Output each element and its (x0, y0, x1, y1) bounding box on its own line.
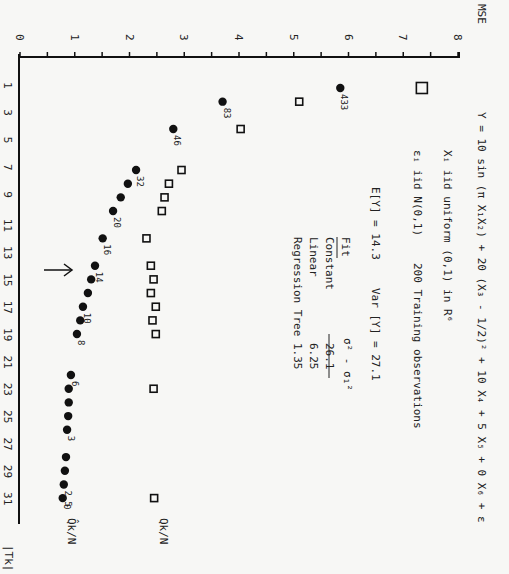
data-point-circle (79, 303, 87, 311)
data-point-square (152, 331, 159, 338)
tk-tick-label: 7 (1, 164, 14, 171)
data-point-circle (84, 289, 92, 297)
legend-q-label: Qk/N (157, 518, 170, 545)
tk-tick-label: 11 (1, 219, 14, 232)
scatter-chart: 012345678 135791113151719212325272931 MS… (0, 0, 509, 574)
data-point-circle (218, 97, 226, 105)
point-label: 14 (94, 272, 104, 283)
point-label: 20 (112, 217, 122, 228)
model-equation: Y = 10 sin (π X₁X₂) + 20 (X₃ - 1/2)² + 1… (475, 112, 488, 523)
data-point-square (161, 194, 168, 201)
legend: Q̂k/N Qk/N (65, 518, 170, 545)
arrow-marker (44, 264, 72, 276)
data-point-square (296, 98, 303, 105)
data-point-circle (91, 262, 99, 270)
fit-table-name: Linear (307, 237, 320, 277)
error-distribution-text: εᵢ iid N(0,1) (411, 150, 424, 236)
data-point-circle (60, 480, 68, 488)
mse-tick-labels: 012345678 (13, 34, 464, 41)
mse-axis-label: MSE (475, 4, 488, 24)
fit-table-name: Regression Tree (291, 237, 304, 336)
data-point-circle (132, 166, 140, 174)
point-label: 32 (135, 176, 145, 187)
data-point-square (143, 235, 150, 242)
mse-tick-label: 6 (342, 34, 355, 41)
data-point-circle (73, 330, 81, 338)
tk-tick-label: 29 (1, 465, 14, 478)
data-point-square (150, 276, 157, 283)
tk-tick-label: 31 (1, 492, 14, 505)
tk-tick-label: 21 (1, 355, 14, 368)
point-label: 10 (82, 313, 92, 324)
data-point-square (150, 385, 157, 392)
data-point-circle (61, 467, 69, 475)
data-point-square (152, 303, 159, 310)
tk-tick-label: 13 (1, 246, 14, 259)
mse-tick-label: 1 (68, 34, 81, 41)
data-point-square (237, 126, 244, 133)
fit-table-value: 6.25 (307, 343, 320, 370)
mse-tick-label: 0 (13, 34, 26, 41)
point-labels: 433834632201614108632.50 (62, 94, 350, 510)
tk-tick-label: 27 (1, 437, 14, 450)
fit-table-name: Constant (323, 237, 336, 290)
data-point-square (416, 83, 427, 94)
mse-tick-label: 7 (396, 34, 409, 41)
tk-tick-label: 9 (1, 191, 14, 198)
point-label: 3 (66, 436, 76, 441)
tk-tick-label: 3 (1, 109, 14, 116)
expected-y-text: E[Y] = 14.3 (369, 187, 382, 260)
tk-tick-label: 1 (1, 82, 14, 89)
data-point-square (151, 495, 158, 502)
mse-tick-label: 4 (232, 34, 245, 41)
data-point-square (165, 180, 172, 187)
point-label: 8 (76, 340, 86, 345)
data-point-circle (65, 398, 73, 406)
data-point-square (149, 317, 156, 324)
fit-table-value: 26.1 (323, 343, 336, 370)
variance-y-text: Var [Y] = 27.1 (369, 288, 382, 381)
data-point-circle (169, 125, 177, 133)
table-header-fit: Fit (339, 237, 352, 257)
fit-table-value: 1.35 (291, 343, 304, 370)
data-point-square (147, 290, 154, 297)
tk-tick-label: 5 (1, 137, 14, 144)
mse-tick-label: 2 (123, 34, 136, 41)
tk-tick-label: 17 (1, 301, 14, 314)
point-label: 433 (339, 94, 349, 110)
tk-tick-label: 23 (1, 383, 14, 396)
point-label: 83 (222, 108, 232, 119)
table-header-value: σ² - σ₁² (341, 338, 354, 391)
mse-tick-label: 3 (177, 34, 190, 41)
data-point-square (147, 262, 154, 269)
training-observations-text: 200 Training observations (411, 263, 424, 429)
data-point-circle (109, 207, 117, 215)
point-label: 6 (70, 381, 80, 386)
data-point-circle (62, 453, 70, 461)
data-point-square (178, 167, 185, 174)
data-point-circle (124, 179, 132, 187)
point-label: 0 (62, 504, 72, 509)
data-point-square (158, 208, 165, 215)
tk-tick-label: 15 (1, 273, 14, 286)
series-qk-squares (143, 83, 427, 502)
data-point-circle (117, 193, 125, 201)
legend-qhat-label: Q̂k/N (65, 518, 79, 545)
mse-tick-label: 8 (451, 34, 464, 41)
point-label: 16 (102, 244, 112, 255)
tk-axis-label: |Tk| (2, 545, 15, 572)
data-point-circle (98, 234, 106, 242)
data-point-circle (64, 412, 72, 420)
annotations: Y = 10 sin (π X₁X₂) + 20 (X₃ - 1/2)² + 1… (44, 112, 488, 523)
data-point-circle (336, 84, 344, 92)
point-label: 46 (172, 135, 182, 146)
x-distribution-text: Xᵢ iid uniform (0,1) in R⁶ (441, 150, 454, 322)
fit-table: Constant26.1Linear6.25Regression Tree1.3… (291, 237, 336, 370)
tk-tick-labels: 135791113151719212325272931 (1, 82, 14, 505)
mse-tick-label: 5 (287, 34, 300, 41)
tk-tick-label: 19 (1, 328, 14, 341)
tk-tick-label: 25 (1, 410, 14, 423)
data-point-circle (67, 371, 75, 379)
data-point-circle (63, 426, 71, 434)
